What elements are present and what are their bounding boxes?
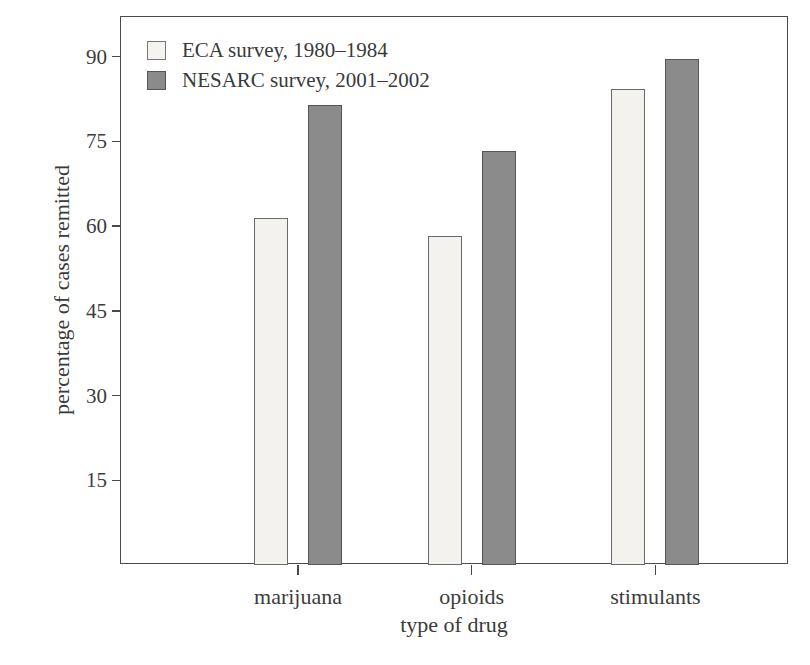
x-tick-mark bbox=[655, 565, 657, 575]
bar-stimulants-eca bbox=[611, 89, 645, 565]
legend-item-eca: ECA survey, 1980–1984 bbox=[147, 35, 430, 65]
y-tick-mark bbox=[112, 310, 121, 312]
dark-square-swatch-icon bbox=[147, 71, 166, 90]
bar-marijuana-eca bbox=[254, 218, 288, 565]
bar-stimulants-nesarc bbox=[665, 59, 699, 565]
x-tick-mark bbox=[471, 565, 473, 575]
bar-chart-figure: percentage of cases remitted 15 30 45 60… bbox=[0, 0, 810, 665]
y-tick-mark bbox=[112, 141, 121, 143]
plot-area: 15 30 45 60 75 90 marijuana opioi bbox=[120, 16, 788, 564]
y-tick-label: 30 bbox=[61, 381, 107, 411]
bar-opioids-nesarc bbox=[482, 151, 516, 565]
x-axis-title: type of drug bbox=[120, 612, 788, 638]
light-square-swatch-icon bbox=[147, 41, 166, 60]
bar-marijuana-nesarc bbox=[308, 105, 342, 565]
y-tick-label: 60 bbox=[61, 211, 107, 241]
legend-label-eca: ECA survey, 1980–1984 bbox=[182, 37, 388, 63]
x-tick-label: stimulants bbox=[545, 583, 765, 611]
legend-label-nesarc: NESARC survey, 2001–2002 bbox=[182, 67, 430, 93]
y-tick-mark bbox=[112, 395, 121, 397]
y-tick-mark bbox=[112, 225, 121, 227]
legend-item-nesarc: NESARC survey, 2001–2002 bbox=[147, 65, 430, 95]
y-tick-mark bbox=[112, 480, 121, 482]
y-tick-label: 75 bbox=[61, 126, 107, 156]
bar-opioids-eca bbox=[428, 236, 462, 565]
y-tick-label: 45 bbox=[61, 296, 107, 326]
y-tick-mark bbox=[112, 56, 121, 58]
x-tick-mark bbox=[297, 565, 299, 575]
chart-legend: ECA survey, 1980–1984 NESARC survey, 200… bbox=[147, 35, 430, 95]
y-tick-label: 90 bbox=[61, 42, 107, 72]
y-tick-label: 15 bbox=[61, 465, 107, 495]
